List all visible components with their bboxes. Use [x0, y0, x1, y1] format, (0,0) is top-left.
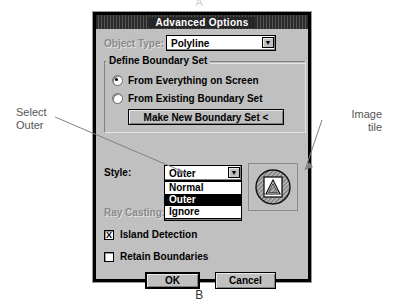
chevron-down-icon[interactable]: ▼ [262, 37, 274, 48]
checkbox-island-detection[interactable]: X Island Detection [104, 229, 197, 240]
figure-label-a: A [0, 0, 399, 6]
checkbox-icon-checked[interactable]: X [104, 230, 114, 240]
callout-right-line1: Image [322, 108, 382, 121]
ray-casting-label: Ray Casting: [104, 207, 165, 218]
radio-icon-selected[interactable] [112, 75, 123, 86]
chevron-down-icon[interactable]: ▼ [228, 167, 240, 178]
make-new-boundary-set-button[interactable]: Make New Boundary Set < [128, 109, 284, 125]
callout-select-outer: Select Outer [16, 106, 47, 132]
style-dropdown-list[interactable]: Normal Outer Ignore [164, 181, 242, 219]
style-value: Outer [165, 168, 196, 179]
radio-label-everything: From Everything on Screen [128, 75, 259, 86]
radio-from-existing-boundary-set[interactable]: From Existing Boundary Set [112, 93, 262, 104]
image-tile-preview[interactable] [248, 163, 298, 211]
object-type-label: Object Type: [104, 38, 166, 49]
dialog-body: Object Type: Polyline ▼ Define Boundary … [96, 29, 308, 293]
style-combobox[interactable]: Outer ▼ [164, 165, 242, 181]
cancel-button[interactable]: Cancel [215, 272, 276, 289]
checkbox-icon-unchecked[interactable] [104, 252, 114, 262]
callout-left-line2: Outer [16, 119, 47, 132]
dialog-title: Advanced Options [149, 17, 254, 28]
checkbox-label-island-detection: Island Detection [120, 229, 197, 240]
hatched-circle-with-triangle-icon [254, 168, 292, 206]
dropdown-option-outer[interactable]: Outer [165, 194, 241, 206]
dropdown-option-ignore[interactable]: Ignore [165, 206, 241, 218]
object-type-value: Polyline [167, 38, 209, 49]
group-box-title: Define Boundary Set [106, 55, 210, 66]
dialog-titlebar[interactable]: Advanced Options [96, 15, 308, 29]
radio-label-existing: From Existing Boundary Set [128, 93, 262, 104]
radio-from-everything-on-screen[interactable]: From Everything on Screen [112, 75, 259, 86]
callout-left-line1: Select [16, 106, 47, 119]
checkbox-label-retain-boundaries: Retain Boundaries [120, 251, 208, 262]
define-boundary-set-group: Define Boundary Set From Everything on S… [104, 55, 306, 133]
ok-button[interactable]: OK [145, 272, 200, 289]
radio-icon-unselected[interactable] [112, 93, 123, 104]
style-label: Style: [104, 167, 131, 178]
callout-right-line2: tile [322, 121, 382, 134]
callout-image-tile: Image tile [322, 108, 382, 134]
advanced-options-dialog: Advanced Options Object Type: Polyline ▼… [93, 12, 311, 282]
object-type-combobox[interactable]: Polyline ▼ [166, 35, 276, 51]
object-type-row: Object Type: Polyline ▼ [104, 35, 306, 51]
checkbox-retain-boundaries[interactable]: Retain Boundaries [104, 251, 208, 262]
dropdown-option-normal[interactable]: Normal [165, 182, 241, 194]
